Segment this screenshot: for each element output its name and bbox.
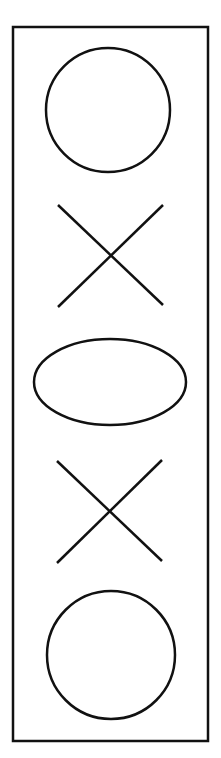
upper-x-mark xyxy=(58,205,163,307)
frame-border xyxy=(13,27,208,741)
bottom-circle xyxy=(47,591,175,719)
middle-ellipse xyxy=(34,339,186,425)
top-circle xyxy=(46,48,170,172)
lower-x-mark xyxy=(57,460,162,563)
diagram-canvas xyxy=(0,0,221,758)
